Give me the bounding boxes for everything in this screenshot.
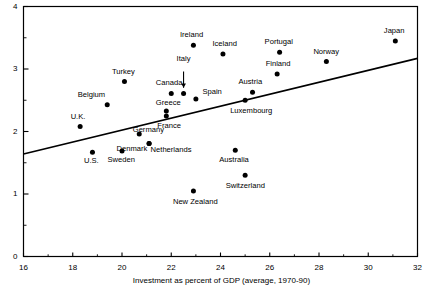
point-label: Finland <box>266 60 291 68</box>
point-label: Denmark <box>117 145 148 153</box>
data-point <box>105 102 110 107</box>
data-point <box>243 98 248 103</box>
data-point <box>191 188 196 193</box>
x-axis-title: Investment as percent of GDP (average, 1… <box>0 276 443 285</box>
point-label: Japan <box>384 27 405 35</box>
x-tick-label: 32 <box>408 263 428 272</box>
point-label: New Zealand <box>173 198 218 206</box>
data-point <box>193 97 198 102</box>
source-note <box>8 290 428 297</box>
data-point <box>393 38 398 43</box>
y-tick-label: 4 <box>6 2 18 11</box>
data-point <box>324 59 329 64</box>
point-label: U.K. <box>71 113 86 121</box>
data-point <box>122 79 127 84</box>
y-tick-label: 3 <box>6 64 18 73</box>
y-tick-label: 1 <box>6 189 18 198</box>
data-point <box>191 43 196 48</box>
point-label: Netherlands <box>151 146 192 154</box>
point-label: Canada <box>156 79 183 87</box>
x-tick-label: 28 <box>309 263 329 272</box>
x-tick-label: 22 <box>161 263 181 272</box>
data-point <box>233 148 238 153</box>
data-point <box>169 91 174 96</box>
trend-line <box>24 58 418 154</box>
x-tick-label: 16 <box>14 263 34 272</box>
point-label: Belgium <box>78 91 105 99</box>
data-point <box>250 90 255 95</box>
point-label: Spain <box>202 88 221 96</box>
point-label: Luxembourg <box>230 107 272 115</box>
point-label: Switzerland <box>226 182 265 190</box>
point-label: Ireland <box>180 31 203 39</box>
point-label: Austria <box>239 78 263 86</box>
point-label: Portugal <box>265 38 293 46</box>
point-label: Greece <box>156 99 181 107</box>
x-tick-label: 18 <box>63 263 83 272</box>
point-label: Iceland <box>212 40 237 48</box>
point-label: Norway <box>313 48 339 56</box>
point-label: France <box>157 122 181 130</box>
point-label: Australia <box>219 156 249 164</box>
point-label: Italy <box>177 55 191 63</box>
scatter-chart-figure: 01234 161820222426283032 U.K.BelgiumTurk… <box>0 0 443 297</box>
point-label: U.S. <box>84 157 99 165</box>
data-point <box>164 113 169 118</box>
point-label: Sweden <box>108 156 135 164</box>
data-point <box>90 150 95 155</box>
data-point <box>164 108 169 113</box>
data-point <box>275 72 280 77</box>
regression-line <box>24 58 418 154</box>
x-tick-label: 26 <box>260 263 280 272</box>
data-point <box>220 52 225 57</box>
point-label: Turkey <box>112 68 135 76</box>
data-point <box>243 173 248 178</box>
x-tick-label: 20 <box>112 263 132 272</box>
data-point <box>78 124 83 129</box>
y-tick-label: 2 <box>6 127 18 136</box>
data-point <box>181 91 186 96</box>
x-tick-label: 30 <box>358 263 378 272</box>
y-tick-label: 0 <box>6 252 18 261</box>
data-points <box>78 38 398 193</box>
x-tick-label: 24 <box>211 263 231 272</box>
data-point <box>277 50 282 55</box>
